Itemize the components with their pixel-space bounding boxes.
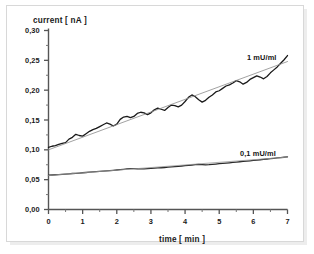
y-tick-label: 0,15	[14, 116, 40, 125]
y-tick-label: 0,30	[14, 26, 40, 35]
y-tick-label: 0,25	[14, 56, 40, 65]
y-tick-label: 0,20	[14, 86, 40, 95]
axes-group	[44, 29, 288, 215]
x-tick-label: 2	[109, 217, 125, 226]
y-tick-label: 0,05	[14, 175, 40, 184]
y-tick-label: 0,00	[14, 205, 40, 214]
trend-line	[49, 62, 288, 150]
x-tick-label: 6	[245, 217, 261, 226]
x-tick-label: 7	[280, 217, 296, 226]
x-tick-label: 3	[143, 217, 159, 226]
x-tick-label: 5	[211, 217, 227, 226]
x-tick-label: 0	[41, 217, 57, 226]
x-tick-label: 1	[75, 217, 91, 226]
x-tick-label: 4	[177, 217, 193, 226]
trend-line	[49, 157, 288, 175]
y-tick-label: 0,10	[14, 145, 40, 154]
data-line	[49, 56, 288, 148]
chart-screenshot: current [ nA ] time [ min ] 1 mU/ml 0,1 …	[0, 0, 314, 254]
series-group	[49, 56, 288, 176]
